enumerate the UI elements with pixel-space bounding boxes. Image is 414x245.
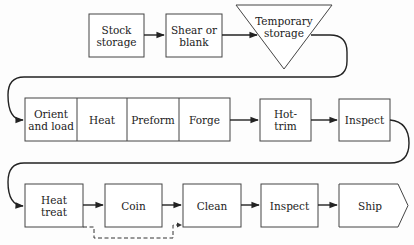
label-heat: Heat — [77, 98, 127, 141]
label-orient-and-load: Orient and load — [25, 98, 77, 141]
label-forge: Forge — [179, 98, 230, 141]
label-heat-treat: Heat treat — [25, 184, 83, 227]
label-inspect-1: Inspect — [339, 99, 390, 141]
label-shear-or-blank: Shear or blank — [166, 14, 222, 57]
label-inspect-2: Inspect — [261, 184, 318, 227]
label-temporary-storage: Temporary storage — [246, 14, 322, 40]
label-stock-storage: Stock storage — [89, 14, 144, 57]
label-coin: Coin — [105, 184, 162, 227]
label-ship: Ship — [339, 184, 401, 227]
dashed-bypass-arrowhead — [177, 223, 182, 228]
process-flow-diagram: Stock storage Shear or blank Temporary s… — [0, 0, 414, 245]
label-preform: Preform — [127, 98, 179, 141]
label-clean: Clean — [183, 184, 241, 227]
label-hot-trim: Hot- trim — [260, 99, 311, 141]
